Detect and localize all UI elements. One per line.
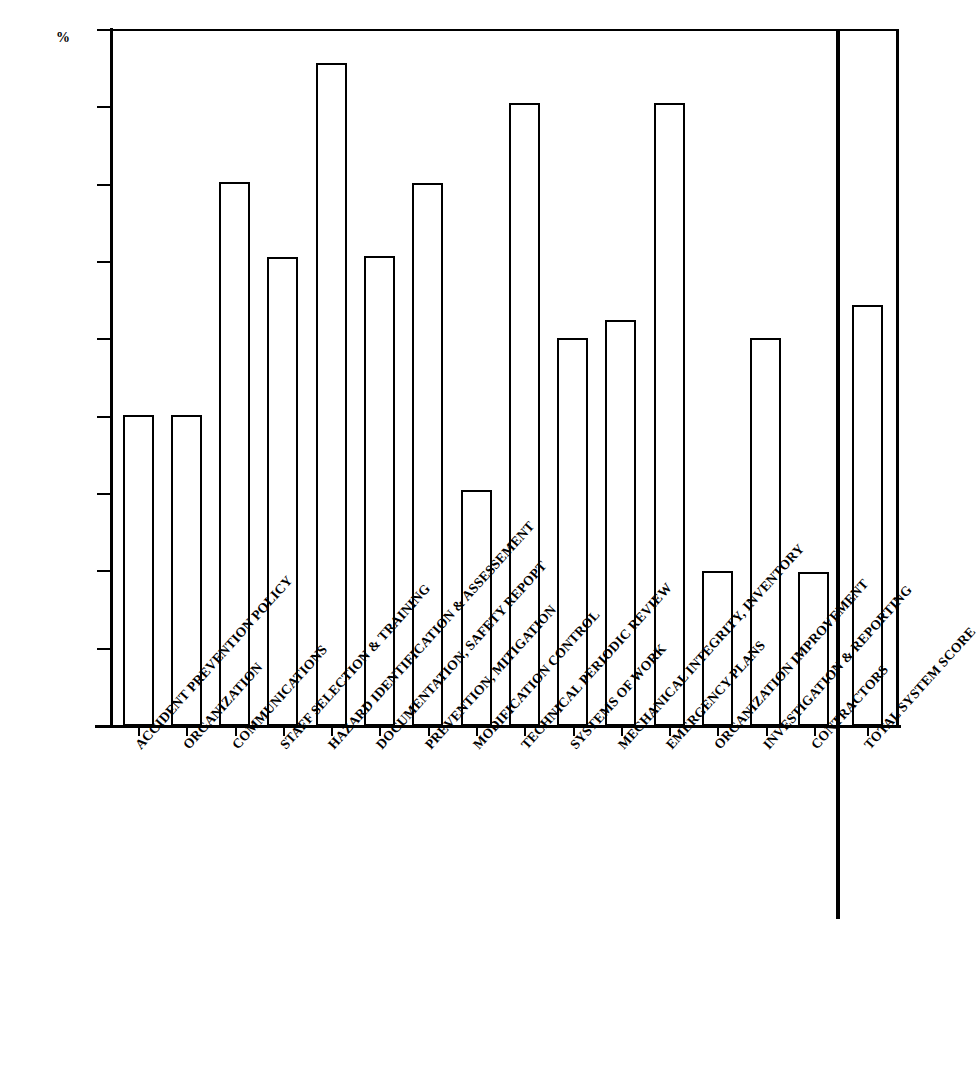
total-score-divider [836, 29, 840, 919]
y-tick-mark [97, 648, 112, 650]
y-tick-mark [97, 416, 112, 418]
bar [267, 257, 298, 726]
y-axis-unit-label: % [56, 30, 70, 46]
y-tick-mark [97, 261, 112, 263]
y-tick-mark [97, 184, 112, 186]
bar [654, 103, 685, 726]
y-tick-mark [97, 106, 112, 108]
y-tick-mark [97, 570, 112, 572]
y-tick-mark [97, 29, 112, 31]
bar [316, 63, 347, 726]
bar [123, 415, 154, 726]
y-tick-mark [97, 493, 112, 495]
y-tick-mark [97, 338, 112, 340]
bar [605, 320, 636, 726]
y-tick-mark [97, 725, 112, 727]
plot-area: 0102030405060708090 [112, 30, 898, 726]
